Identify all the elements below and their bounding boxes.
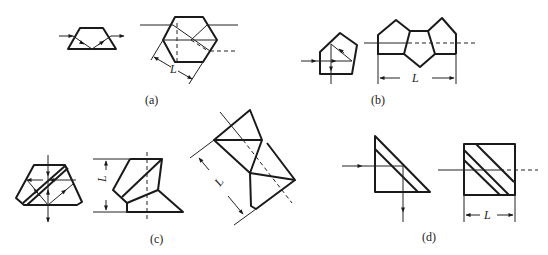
right-angle-prism-unfolded: L [438,144,538,222]
caption-a: (a) [145,93,158,107]
pentaprism-unfolded: L [364,18,475,85]
dimension-label-c1: L [95,175,109,183]
dove-prism [59,28,124,49]
panel-d: L (d) [342,136,538,244]
compound-prism-unfolded-2: L [190,110,295,225]
panel-b: L (b) [301,18,475,107]
dimension-label-b: L [411,71,419,85]
dimension-label-a: L [169,62,177,76]
dimension-label-d: L [483,208,491,222]
panel-c: L L (c) [16,110,295,246]
compound-prism-unfolded-1: L [93,152,183,221]
hexagonal-prism: L [140,17,238,84]
caption-c: (c) [150,232,163,246]
pentaprism [301,33,357,84]
caption-b: (b) [371,93,385,107]
panel-a: L (a) [59,17,238,107]
right-angle-prism [342,136,430,222]
compound-prism [16,155,82,222]
caption-d: (d) [422,230,436,244]
dimension-label-c2: L [211,175,227,190]
prism-diagram: L (a) L (b) [0,0,548,255]
